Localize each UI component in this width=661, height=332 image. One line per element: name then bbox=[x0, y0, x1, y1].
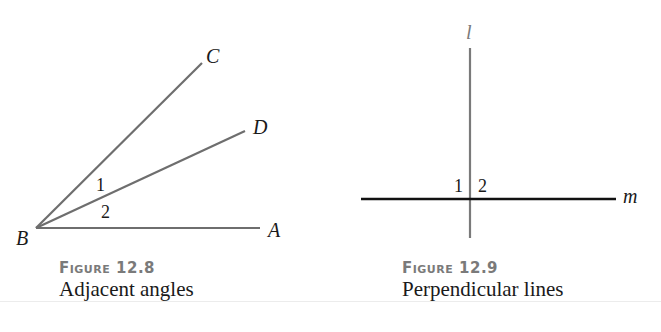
figure-12-8-diagram bbox=[36, 63, 260, 228]
point-label-D: D bbox=[253, 117, 267, 137]
ray-BD bbox=[36, 131, 245, 228]
angle-label-2: 2 bbox=[478, 177, 487, 195]
point-label-C: C bbox=[206, 46, 219, 66]
point-label-A: A bbox=[268, 220, 280, 240]
angle-label-2: 2 bbox=[101, 203, 110, 221]
figure-12-9-diagram bbox=[361, 48, 616, 238]
figure-caption-12-9: Perpendicular lines bbox=[402, 277, 564, 302]
angle-label-1: 1 bbox=[96, 176, 105, 194]
figure-caption-12-8: Adjacent angles bbox=[59, 277, 194, 302]
line-label-m: m bbox=[623, 186, 637, 206]
point-label-B: B bbox=[16, 228, 28, 248]
figure-number-12-9: Figure 12.9 bbox=[402, 259, 498, 277]
angle-label-1: 1 bbox=[454, 177, 463, 195]
divider bbox=[0, 301, 661, 302]
line-label-l: l bbox=[466, 22, 472, 42]
ray-BC bbox=[36, 63, 202, 228]
figure-number-12-8: Figure 12.8 bbox=[59, 259, 155, 277]
